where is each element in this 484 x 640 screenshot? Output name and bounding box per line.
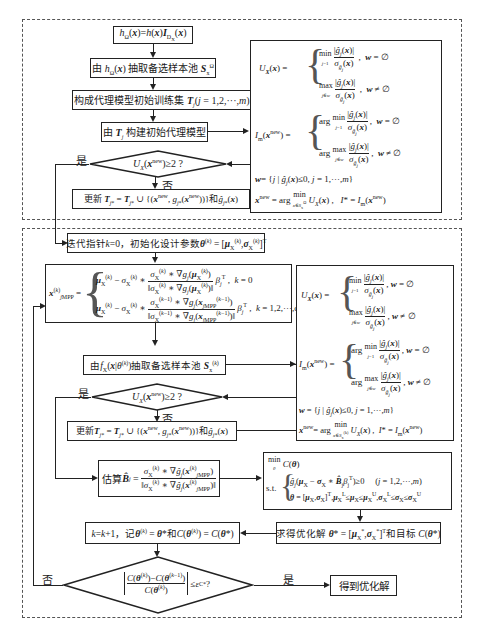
solve-text: 求得优化解 θ* = [μX*,σX*]T和目标 C(θ*) <box>276 526 440 541</box>
step-increment-k: k=k+1，记θ(k) = θ*和C(θ(k)) = C(θ*) <box>85 522 240 544</box>
lm-case2-2: arg maxj∈w |ĝj(x)|σĝj(x) , w ≠ ∅ <box>351 370 431 397</box>
step-h-omega-text: hΩ(x)=h(x)IDX(x) <box>119 27 186 42</box>
w-def: w= {j | ĝj(x)≤0, j = 1,···,m} <box>255 174 353 186</box>
lm-lhs-2: Im(xnew) = <box>299 358 335 371</box>
arrow-down-icon <box>152 340 158 346</box>
arrow-left-icon <box>222 394 228 400</box>
lm-case1: arg minj=1 |ĝj(x)|σĝj(x) , w = ∅ <box>319 109 400 136</box>
step-sample-pool-text: 由 hΩ(x) 抽取备选样本池 SxΩ <box>92 60 214 76</box>
st-label: s.t. <box>266 483 277 493</box>
connector <box>33 585 63 586</box>
connector <box>224 397 296 398</box>
ux-case1: minj=1 |ĝj(x)|σĝj(x) , w = ∅ <box>319 45 389 72</box>
decision-1-text: UX(xnew)≥2 ? <box>118 158 198 171</box>
xmpp-case1: μX(k) − σX(k) ∗ σX(k) ∗ ∇gj(μX(k))‖σX(k)… <box>96 268 253 295</box>
connector <box>254 585 326 586</box>
arrow-right-icon <box>40 303 46 309</box>
w-def-2: w = {j | ĝj(x)≤0, j = 1,···,m} <box>299 405 394 417</box>
step-build-model: 由 Tj 构建初始代理模型 <box>101 122 208 142</box>
ux-lhs-2: UX(x) = <box>301 290 329 302</box>
ux-case1-2: minj=1 |ĝj(x)|σĝj(x) , w = ∅ <box>349 272 414 299</box>
lm-lhs: Im(xnew) = <box>255 129 291 142</box>
arrow-right-icon <box>256 475 262 481</box>
arrow-right-icon <box>243 128 249 134</box>
constraint-2: θ = [μX,σX]T,μXL≤μX≤μXU,σXL≤σX≤σXU <box>290 491 421 503</box>
step-h-omega: hΩ(x)=h(x)IDX(x) <box>113 26 193 44</box>
arrow-left-icon <box>240 530 246 536</box>
step-sample-pool-k: 由fX(x|θ(k))抽取备选样本池 Sx(k) <box>83 355 226 375</box>
step-training-set-text: 构成代理模型初始训练集 Tj(j = 1,2,···,m) <box>74 92 249 108</box>
connector <box>55 397 91 398</box>
increment-text: k=k+1，记θ(k) = θ*和C(θ(k)) = C(θ*) <box>91 526 233 540</box>
sample-k-text: 由fX(x|θ(k))抽取备选样本池 Sx(k) <box>90 358 219 373</box>
connector <box>237 430 296 431</box>
ux-case2: maxj∈w |ĝj(x)|σĝj(x) , w ≠ ∅ <box>319 77 390 104</box>
connector <box>55 397 56 479</box>
step-update-model-2: 更新Tj* = Tj* ∪ {(xnew, gj*(xnew))}和ĝj*(x) <box>67 421 237 441</box>
step-update-model-1: 更新 Tj* = Tj* ∪ {(xnew, gj*(xnew))}和ĝj*(x… <box>72 189 250 209</box>
connector <box>55 478 95 479</box>
init-text: 迭代指针k=0，初始化设计参数θ(k) = [μX(k),σX(k)]T <box>66 236 267 251</box>
optimization-problem-box: minθ C(θ) s.t. { ĝj(μX − σX ∗ B̂jβjT)≥0 … <box>263 452 452 510</box>
xmpp-lhs: x(k)jMPP = <box>49 287 81 300</box>
ux-lhs: UX(x) = <box>259 63 287 75</box>
step-training-set: 构成代理模型初始训练集 Tj(j = 1,2,···,m) <box>72 90 252 110</box>
connector <box>33 306 34 586</box>
step-estimate-b: 估算 B̂j = σX(k) ∗ ∇ĝj(x(k)jMPP)‖σX(k) ∗ ∇… <box>98 460 220 497</box>
formula-box-phase2: UX(x) = { minj=1 |ĝj(x)|σĝj(x) , w = ∅ m… <box>296 265 454 441</box>
constraint-1: ĝj(μX − σX ∗ B̂jβjT)≥0 (j = 1,2,···,m) <box>290 475 422 488</box>
lm-case1-2: arg minj=1 |ĝj(x)|σĝj(x) , w = ∅ <box>351 338 430 365</box>
step-solve: 求得优化解 θ* = [μX*,σX*]T和目标 C(θ*) <box>276 522 441 544</box>
mpp-formula-box: x(k)jMPP = { μX(k) − σX(k) ∗ σX(k) ∗ ∇gj… <box>45 264 292 323</box>
connector <box>226 364 296 365</box>
update-2-text: 更新Tj* = Tj* ∪ {(xnew, gj*(xnew))}和ĝj*(x) <box>76 424 228 438</box>
estimate-text: 估算 B̂j = σX(k) ∗ ∇ĝj(x(k)jMPP)‖σX(k) ∗ ∇… <box>102 465 215 492</box>
connector <box>220 478 258 479</box>
decision-2-text: UX(xnew)≥2 ? <box>117 391 197 404</box>
xmpp-case2: μX(k) − σX(k) ∗ σX(k−1) ∗ ∇gj(xjMPP(k−1)… <box>96 296 306 323</box>
result-optimal-solution: 得到优化解 <box>330 575 397 596</box>
step-init-iteration: 迭代指针k=0，初始化设计参数θ(k) = [μX(k),σX(k)]T <box>67 233 265 253</box>
xnew-def: xnew = arg minx∈SxΩ UX(x) , I* = Im(xnew… <box>255 191 386 212</box>
arrow-down-icon <box>152 257 158 263</box>
xnew-def-2: xnew= arg minx∈Sx(k) UX(x) , I* = Im(xne… <box>299 421 422 442</box>
decision-1-yes-label: 是 <box>76 152 87 168</box>
connector <box>208 131 244 132</box>
step-sample-pool: 由 hΩ(x) 抽取备选样本池 SxΩ <box>90 58 216 78</box>
connector <box>243 533 276 534</box>
update-1-text: 更新 Tj* = Tj* ∪ {(xnew, gj*(xnew))}和ĝj*(x… <box>84 192 238 206</box>
convergence-text: C(θ(k))−C(θ(k−1)) C(θ(k)) ≤εC* ? <box>112 572 222 595</box>
result-text: 得到优化解 <box>339 578 389 593</box>
connector <box>55 164 89 165</box>
arrow-left-icon <box>226 161 232 167</box>
ux-case2-2: maxj∈w |ĝj(x)|σĝj(x) , w ≠ ∅ <box>349 304 416 331</box>
step-build-model-text: 由 Tj 构建初始代理模型 <box>103 124 206 140</box>
formula-box-phase1: UX(x) = { minj=1 |ĝj(x)|σĝj(x) , w = ∅ m… <box>250 40 442 213</box>
lm-case2: arg maxj∈w |ĝj(x)|σĝj(x) , w ≠ ∅ <box>319 141 401 168</box>
decision-2-yes-label: 是 <box>78 385 89 401</box>
